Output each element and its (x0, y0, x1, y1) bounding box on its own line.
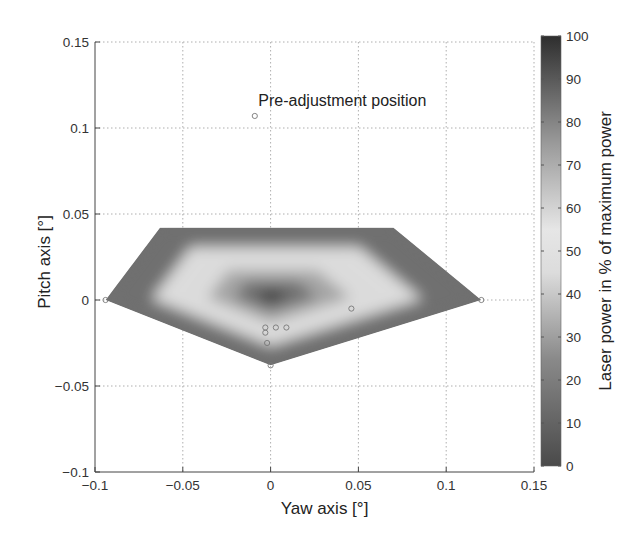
y-tick-label: 0 (81, 293, 89, 308)
surface-levels (106, 228, 482, 366)
colorbar-label: Laser power in % of maximum power (596, 111, 615, 391)
data-point (252, 113, 257, 118)
y-tick-label: 0.15 (63, 35, 89, 50)
colorbar-tick-label: 100 (566, 29, 589, 44)
x-tick-labels: −0.1−0.0500.050.10.15 (82, 478, 547, 493)
x-tick-label: −0.05 (166, 478, 200, 493)
y-tick-label: 0.1 (70, 121, 89, 136)
y-axis-label: Pitch axis [°] (35, 215, 54, 309)
surface-peak (267, 293, 275, 301)
colorbar-tick-label: 70 (566, 158, 581, 173)
colorbar-tick-label: 30 (566, 330, 581, 345)
power-surface (106, 228, 482, 366)
colorbar-tick-label: 20 (566, 373, 581, 388)
x-tick-label: 0.1 (437, 478, 456, 493)
x-tick-label: −0.1 (82, 478, 109, 493)
x-tick-label: 0.15 (521, 478, 547, 493)
surface-group (106, 228, 482, 366)
colorbar-tick-label: 90 (566, 72, 581, 87)
y-tick-labels: −0.1−0.0500.050.10.15 (55, 35, 89, 480)
laser-power-chart: −0.1−0.0500.050.10.15 −0.1−0.0500.050.10… (0, 0, 644, 545)
x-tick-label: 0 (267, 478, 275, 493)
colorbar-tick-label: 40 (566, 287, 581, 302)
colorbar-tick-label: 0 (566, 459, 574, 474)
colorbar: 0102030405060708090100 (541, 29, 589, 474)
x-tick-label: 0.05 (345, 478, 371, 493)
colorbar-tick-label: 10 (566, 416, 581, 431)
annotation-pre-adjustment: Pre-adjustment position (258, 92, 426, 109)
x-axis-label: Yaw axis [°] (281, 499, 369, 518)
y-tick-label: 0.05 (63, 207, 89, 222)
colorbar-tick-label: 80 (566, 115, 581, 130)
colorbar-tick-label: 50 (566, 244, 581, 259)
y-tick-label: −0.1 (62, 465, 89, 480)
y-tick-label: −0.05 (55, 379, 89, 394)
colorbar-tick-label: 60 (566, 201, 581, 216)
